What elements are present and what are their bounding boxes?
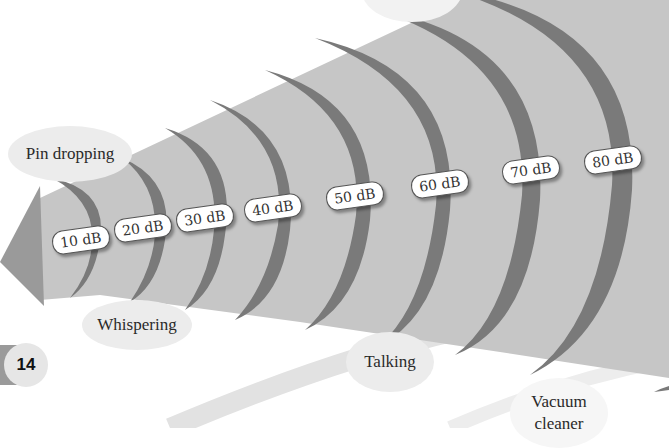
- speaker-arrow: [0, 186, 44, 306]
- db-text: 50 dB: [333, 185, 376, 207]
- db-text: 30 dB: [183, 207, 226, 229]
- source-bubble-pin-dropping: Pin dropping: [8, 126, 132, 182]
- db-text: 40 dB: [251, 197, 294, 219]
- source-label: Pin dropping: [26, 143, 114, 165]
- source-bubble-talking: Talking: [346, 332, 434, 392]
- source-label: Whispering: [97, 314, 176, 336]
- db-text: 70 dB: [509, 159, 552, 181]
- page-number: 14: [4, 343, 48, 387]
- source-bubble-vacuum-cleaner: Vacuum cleaner: [510, 378, 608, 448]
- db-text: 20 dB: [121, 217, 164, 239]
- db-text: 10 dB: [59, 229, 102, 251]
- sound-wave-arc-partial: [654, 386, 669, 392]
- page-number-text: 14: [17, 355, 36, 375]
- source-label: Vacuum cleaner: [524, 391, 594, 435]
- source-bubble-whispering: Whispering: [82, 300, 192, 350]
- db-text: 60 dB: [418, 173, 461, 195]
- db-text: 80 dB: [591, 149, 634, 171]
- source-label: Talking: [364, 351, 416, 373]
